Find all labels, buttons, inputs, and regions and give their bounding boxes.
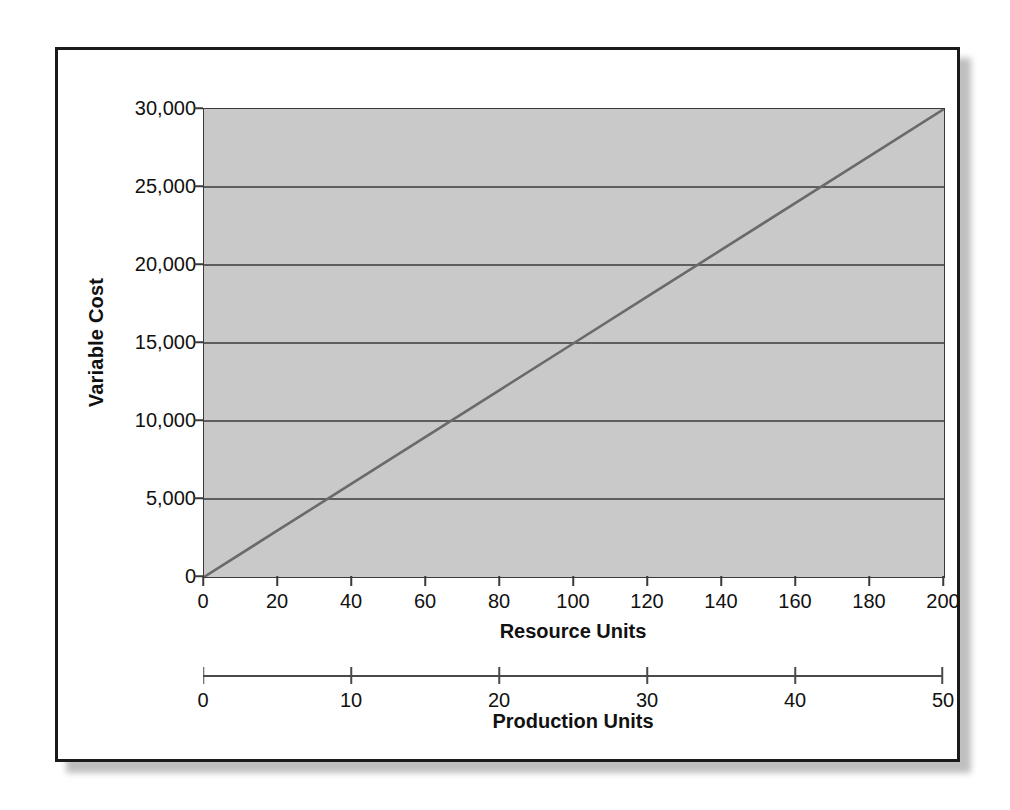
x-axis-tick-mark	[350, 576, 352, 586]
x-axis-tick-label: 160	[778, 590, 811, 613]
secondary-axis-tick-mark	[942, 667, 944, 684]
secondary-axis-tick-label: 40	[784, 689, 806, 712]
x-axis-tick-mark	[868, 576, 870, 586]
secondary-axis-line	[203, 675, 943, 677]
y-axis-tick-marks	[58, 108, 203, 576]
secondary-axis-tick-label: 50	[932, 689, 954, 712]
x-axis-tick-mark	[424, 576, 426, 586]
secondary-axis-tick-label: 20	[488, 689, 510, 712]
x-axis-tick-label: 40	[340, 590, 362, 613]
x-axis-tick-label: 100	[556, 590, 589, 613]
x-axis-tick-mark	[498, 576, 500, 586]
x-axis-tick-label: 200	[926, 590, 959, 613]
x-axis-tick-label: 140	[704, 590, 737, 613]
x-axis-tick-mark	[720, 576, 722, 586]
y-axis-tick-mark	[194, 107, 203, 109]
x-axis-tick-label: 0	[197, 590, 208, 613]
y-axis-tick-mark	[194, 419, 203, 421]
x-axis-tick-mark	[794, 576, 796, 586]
x-axis-primary-title: Resource Units	[203, 620, 943, 643]
x-axis-tick-mark	[646, 576, 648, 586]
x-axis-tick-mark	[276, 576, 278, 586]
y-axis-tick-mark	[194, 341, 203, 343]
secondary-axis-tick-mark	[498, 667, 500, 684]
plot-area	[203, 108, 945, 578]
x-axis-tick-label: 80	[488, 590, 510, 613]
secondary-axis-tick-mark	[646, 667, 648, 684]
x-axis-tick-mark	[942, 576, 944, 586]
secondary-axis-tick-label: 30	[636, 689, 658, 712]
secondary-axis-tick-mark	[350, 667, 352, 684]
secondary-axis-tick-label: 0	[197, 689, 208, 712]
y-axis-tick-mark	[194, 263, 203, 265]
y-axis-tick-mark	[194, 185, 203, 187]
y-axis-tick-mark	[194, 497, 203, 499]
x-axis-secondary-title: Production Units	[203, 710, 943, 733]
plot-svg	[204, 109, 944, 577]
chart-canvas: Variable Cost 05,00010,00015,00020,00025…	[58, 50, 957, 759]
secondary-axis-tick-mark	[203, 667, 205, 684]
x-axis-tick-mark	[572, 576, 574, 586]
x-axis-tick-mark	[202, 576, 204, 586]
x-axis-tick-label: 120	[630, 590, 663, 613]
x-axis-tick-label: 20	[266, 590, 288, 613]
x-axis-tick-label: 180	[852, 590, 885, 613]
secondary-axis-tick-label: 10	[340, 689, 362, 712]
secondary-axis-tick-mark	[794, 667, 796, 684]
figure-card: Variable Cost 05,00010,00015,00020,00025…	[55, 47, 960, 762]
x-axis-tick-label: 60	[414, 590, 436, 613]
